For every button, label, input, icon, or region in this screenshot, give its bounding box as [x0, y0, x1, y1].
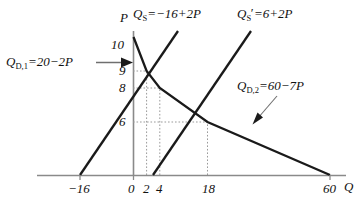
demand2-arrow-shaft	[258, 96, 277, 118]
supply-shifted-q: Q	[237, 6, 246, 21]
xtick-label-18: 18	[202, 182, 215, 195]
supply-original-subscript: S	[142, 13, 147, 23]
ytick-label-10: 10	[111, 38, 124, 51]
xtick-label-0: 0	[128, 182, 135, 195]
supply-original-q: Q	[133, 6, 142, 21]
demand1-label: QD,1=20−2P	[6, 55, 73, 68]
guide-lines	[133, 71, 208, 175]
xtick-label-4: 4	[156, 182, 163, 195]
axes	[37, 31, 346, 176]
demand1-subscript: D,1	[15, 61, 28, 71]
demand1-rhs: =20−2P	[28, 54, 73, 69]
demand2-subscript: D,2	[246, 85, 259, 95]
supply-demand-chart: QS=−16+2P QS′=6+2P QD,1=20−2P QD,2=60−7P…	[0, 0, 358, 206]
y-axis-label: P	[120, 11, 128, 24]
ytick-label-6: 6	[119, 115, 126, 128]
supply-original-rhs: =−16+2P	[147, 6, 201, 21]
xtick-label-neg16: −16	[68, 182, 90, 195]
ytick-label-8: 8	[119, 81, 126, 94]
demand2-rhs: =60−7P	[259, 78, 304, 93]
supply-curve-original	[80, 31, 178, 175]
supply-original-label: QS=−16+2P	[133, 7, 201, 20]
chart-canvas	[0, 0, 358, 206]
supply-shifted-rhs: =6+2P	[254, 6, 293, 21]
demand2-q: Q	[237, 78, 246, 93]
ytick-label-9: 9	[119, 64, 126, 77]
xtick-label-2: 2	[143, 182, 150, 195]
demand1-q: Q	[6, 54, 15, 69]
supply-curve-shifted	[153, 31, 251, 175]
supply-shifted-label: QS′=6+2P	[237, 7, 292, 20]
x-axis-label: Q	[344, 180, 353, 193]
xtick-label-60: 60	[323, 182, 336, 195]
curves	[80, 31, 330, 175]
demand2-label: QD,2=60−7P	[237, 79, 304, 92]
